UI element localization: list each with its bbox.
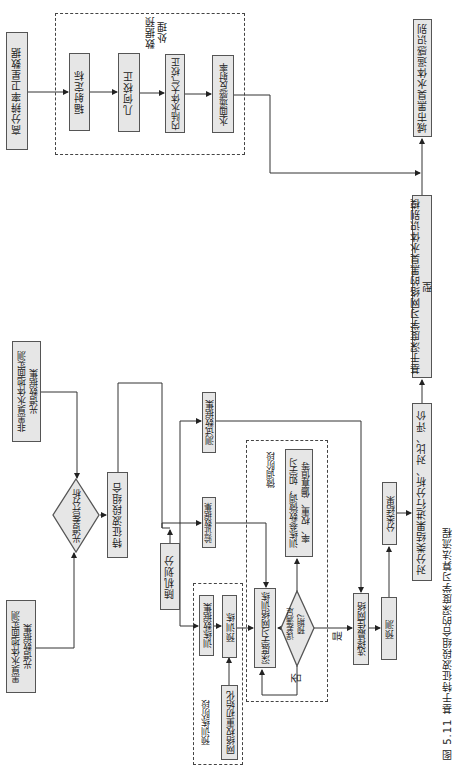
weight-init-node: 网络权重初始化 [221, 685, 238, 760]
radiometric-calibration-node: 辐射定标 [69, 53, 90, 131]
urban-identification-node: 城市黑臭水体遥感识别 [413, 19, 432, 137]
satellite-data-node: 高分辨率卫星数据 [6, 32, 28, 150]
error-check-label: 误差满足 预期? [285, 608, 307, 640]
random-split-node: 随机划分 [160, 543, 180, 610]
param-finetune-node: 训练参数微调，如学习 率、权重、偏置值等 [285, 449, 313, 557]
dl-training-node: 深度学习网络训练 [254, 588, 276, 668]
yes-label: 是 [332, 631, 344, 641]
test-dataset-node: 测试数据集 [202, 392, 216, 453]
non-black-odorous-dataset-node: 非黑臭水体地面实测 光谱数据集 [12, 341, 41, 442]
water-reflectance-node: 水面遥感反射率 [212, 55, 234, 133]
no-label: 否 [291, 673, 303, 683]
figure-caption: 图 5.11 基于特征波段组合的深度学习算法流程 [442, 290, 454, 760]
analysis-node: 对分类结果进行分析、对比、评价 [412, 403, 432, 581]
select-best-node: 选择最佳网络 [353, 593, 369, 665]
train-dataset-node: 训练数据集 [199, 595, 214, 656]
feature-band-combination-node: 特征波段组合 [107, 472, 128, 558]
spectral-difference-label: 光谱差异分析 [70, 482, 82, 550]
classification-result-node: 分类结果 [382, 482, 397, 545]
pretrain-node: 预训练 [222, 595, 237, 658]
preprocess-group-label: 数据预 处理 [145, 16, 169, 49]
pretrain-group-label: 预训练阶段 [199, 700, 211, 745]
dl-model-node: 基于深度学习网络的黑臭水体识别模型 [412, 195, 432, 378]
finetune-group-label: 微调阶段 [264, 452, 276, 488]
geometric-correction-node: 几何校正 [118, 53, 140, 132]
validation-dataset-node: 验证数据集 [202, 497, 216, 548]
predict-node: 预测 [381, 597, 397, 660]
black-odorous-dataset-node: 黑臭水体地面实测 光谱数据集 [6, 600, 36, 693]
atmospheric-correction-node: 内陆水体大气校正 [165, 54, 185, 133]
